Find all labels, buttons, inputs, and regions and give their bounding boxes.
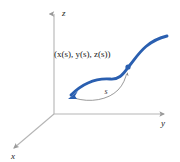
- x-axis-label: x: [10, 151, 15, 161]
- x-axis: [14, 114, 54, 148]
- space-curve-group: [68, 36, 167, 99]
- arc-length-label: s: [104, 87, 107, 96]
- curve-point-label: (x(s), y(s), z(s)): [54, 49, 110, 59]
- y-axis-label: y: [160, 118, 165, 128]
- space-curve-figure: z y x s (x(s), y(s), z(s)): [0, 0, 180, 162]
- space-curve-shadow: [71, 36, 167, 95]
- z-axis-label: z: [61, 8, 66, 18]
- curve-point-marker: [125, 64, 130, 69]
- figure-container: z y x s (x(s), y(s), z(s)): [0, 0, 180, 162]
